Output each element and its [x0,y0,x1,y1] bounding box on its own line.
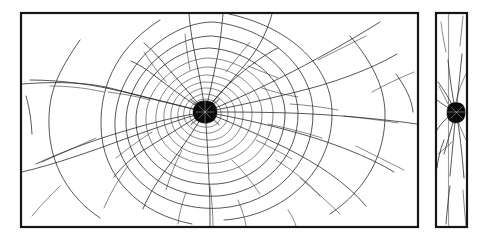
fracture-figure: Impact fracture pattern: radial and circ… [0,0,488,247]
fracture-figure-svg [0,0,488,247]
impact-core-side [447,103,465,123]
front-view-panel [21,13,418,227]
side-view-panel [436,13,467,227]
